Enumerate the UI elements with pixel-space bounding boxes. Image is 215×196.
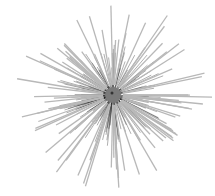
- brush-illustration: [0, 0, 215, 196]
- brush-photo: [0, 0, 215, 196]
- brush-hub: [105, 87, 121, 103]
- hub-center-dot: [111, 92, 114, 95]
